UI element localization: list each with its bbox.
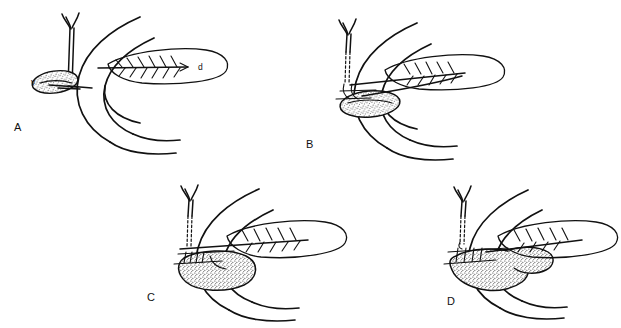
bile-duct-shaft-left <box>188 200 189 216</box>
pancreatic-duct-branch <box>542 242 548 251</box>
pancreatic-duct-branch <box>294 241 300 250</box>
bile-duct-fork-right <box>72 13 79 28</box>
pancreatic-duct-branch <box>562 228 568 240</box>
pancreatic-duct-branch <box>407 76 413 85</box>
duodenum-distal-limb-outer <box>229 310 295 321</box>
bile-duct-hidden-right <box>464 216 465 244</box>
pancreatic-duct-branch <box>242 230 248 241</box>
label-pancreatic-duct-d: d <box>198 62 203 72</box>
pancreatic-duct-branch <box>138 57 144 67</box>
panel-letter-c: C <box>147 291 155 303</box>
pancreatic-duct-branch <box>171 56 177 67</box>
pancreatic-duct-branch <box>270 242 276 252</box>
pancreatic-duct-branch <box>141 68 147 78</box>
bile-duct-hidden-left <box>460 216 461 244</box>
reconstructed-organ-mass <box>179 251 256 290</box>
pancreatic-duct-branch <box>437 62 443 73</box>
cystic-duct-lower <box>58 88 80 89</box>
pancreatic-duct-main <box>98 67 188 68</box>
duodenum-distal-limb-outer <box>500 308 564 319</box>
bile-duct-fork-right <box>191 185 198 200</box>
pancreatic-duct-branch <box>440 75 446 84</box>
pancreas-body <box>108 49 228 84</box>
pancreatic-duct-branch <box>290 228 296 240</box>
bile-duct-fork-left <box>181 186 189 200</box>
pancreatic-duct-branch <box>554 241 560 250</box>
panel-b-bile-duct <box>339 19 356 84</box>
panel-a-pancreas <box>98 49 228 84</box>
pancreatic-duct-branch <box>514 230 520 241</box>
bile-duct-shaft-left <box>461 201 462 216</box>
pancreatic-duct-branch <box>266 228 272 240</box>
panel-c: C <box>147 185 347 321</box>
panel-a-duodenum <box>77 17 180 154</box>
duodenum-distal-limb-inner <box>133 134 180 141</box>
duodenum-distal-limb-inner <box>522 301 567 308</box>
panel-c-bile-duct <box>181 185 198 246</box>
bile-duct-shaft-left <box>346 34 347 52</box>
pancreatic-duct-branch <box>448 62 454 73</box>
bile-duct-hidden-right <box>191 216 192 246</box>
panel-letter-a: A <box>14 121 22 133</box>
bile-duct-hidden-left <box>345 52 346 84</box>
duodenum-outer-wall <box>354 23 417 148</box>
panel-b: B <box>306 19 505 160</box>
pancreatic-duct-branch <box>404 64 410 74</box>
pancreatic-duct-branch <box>278 228 284 240</box>
pancreatic-duct-branch <box>174 68 180 77</box>
duodenum-distal-limb-outer <box>110 142 176 154</box>
gallbladder-body <box>31 68 80 96</box>
bile-duct-fork-right <box>464 186 471 201</box>
bile-duct-fork-left <box>339 20 347 34</box>
duodenum-distal-limb-inner <box>252 302 299 309</box>
duodenum-inner-wall-lower <box>105 86 140 123</box>
pancreatic-duct-branch <box>538 228 544 240</box>
illustration-canvas: v d A <box>0 0 621 328</box>
pancreas-body <box>385 55 505 90</box>
panel-letter-d: D <box>447 295 455 307</box>
bile-duct-shaft-right <box>350 34 351 52</box>
pancreatic-duct-branch <box>160 56 166 67</box>
pancreatic-duct-branch <box>415 63 421 74</box>
pancreatic-duct-branch <box>130 68 136 77</box>
pancreatic-duct-branch <box>149 56 155 67</box>
pancreatic-duct-branch <box>127 58 133 67</box>
pancreatic-duct-branch <box>282 242 288 251</box>
mobilised-organ-mass <box>339 88 401 119</box>
panel-c-stippled-mass <box>179 251 256 290</box>
figure-root: v d A <box>0 0 621 328</box>
duodenum-distal-limb-outer <box>387 148 453 160</box>
duct-implant-marker <box>459 242 462 249</box>
duodenum-outer-wall <box>77 17 140 142</box>
bile-duct-hidden-right <box>349 52 350 84</box>
panel-b-mobilised-mass <box>339 88 401 119</box>
pancreatic-duct-branch <box>526 229 532 241</box>
panel-letter-b: B <box>306 138 314 150</box>
pancreatic-duct-branch <box>254 229 260 241</box>
bile-duct-shaft-right <box>465 201 466 216</box>
panel-d-bile-duct <box>454 186 471 244</box>
panel-d: D <box>444 186 618 319</box>
bile-duct-shaft-right <box>192 200 193 216</box>
bile-duct-fork-right <box>349 19 356 34</box>
duodenum-distal-limb-inner <box>410 140 457 147</box>
bile-duct-fork-left <box>454 187 462 201</box>
bile-duct-fork-left <box>62 14 70 28</box>
pancreatic-duct-branch <box>426 62 432 74</box>
pancreatic-duct-branch <box>119 68 125 76</box>
pancreatic-duct-branch <box>550 228 556 240</box>
pancreatic-duct-branch <box>163 68 169 78</box>
pancreatic-duct-branch <box>152 68 158 78</box>
panel-a: v d A <box>14 13 228 154</box>
bile-duct-hidden-left <box>187 216 188 246</box>
